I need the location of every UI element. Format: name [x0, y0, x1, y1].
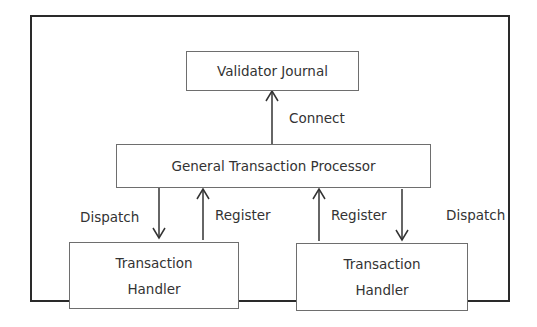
validator-journal-label: Validator Journal [217, 58, 328, 84]
dispatch-left-arrow [153, 188, 165, 238]
connect-label: Connect [289, 110, 345, 126]
handler-left-line1: Transaction [115, 250, 192, 276]
register-left-label: Register [215, 207, 271, 223]
register-left-arrow [197, 189, 209, 240]
processor-label: General Transaction Processor [171, 153, 375, 179]
handler-right-line2: Handler [355, 277, 408, 303]
register-right-label: Register [331, 207, 387, 223]
dispatch-right-label: Dispatch [446, 207, 505, 223]
general-transaction-processor-node: General Transaction Processor [116, 144, 431, 188]
dispatch-right-arrow [396, 189, 408, 240]
register-right-arrow [313, 189, 325, 241]
validator-journal-node: Validator Journal [186, 51, 359, 91]
handler-left-line2: Handler [127, 276, 180, 302]
dispatch-left-label: Dispatch [80, 209, 139, 225]
connect-arrow [266, 91, 278, 144]
handler-right-line1: Transaction [343, 251, 420, 277]
transaction-handler-right-node: Transaction Handler [296, 243, 468, 311]
transaction-handler-left-node: Transaction Handler [69, 242, 239, 309]
